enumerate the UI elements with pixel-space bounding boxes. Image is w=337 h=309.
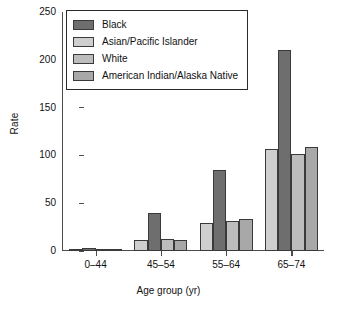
bar-chart-figure: Rate 050100150200250 Age group (yr) Blac…: [0, 0, 337, 309]
bar: [82, 248, 95, 251]
legend-label: Asian/Pacific Islander: [102, 36, 198, 47]
legend-swatch-icon: [73, 71, 94, 81]
bar: [213, 170, 226, 251]
bar: [278, 50, 291, 251]
x-tick-mark: [161, 251, 162, 256]
bar: [109, 249, 122, 251]
bar: [96, 249, 109, 251]
legend-item[interactable]: Black: [73, 16, 238, 33]
x-tick-mark: [291, 251, 292, 256]
bar: [239, 219, 252, 251]
y-axis-ticks: 050100150200250: [22, 0, 56, 309]
legend-item[interactable]: White: [73, 50, 238, 67]
y-tick-label: 50: [22, 197, 56, 209]
legend-label: American Indian/Alaska Native: [102, 70, 238, 81]
legend-label: Black: [102, 19, 126, 30]
x-tick-mark: [226, 251, 227, 256]
bar: [69, 249, 82, 251]
y-tick-label: 100: [22, 149, 56, 161]
y-tick-label: 200: [22, 54, 56, 66]
bar: [134, 240, 147, 251]
bar: [148, 213, 161, 251]
legend-swatch-icon: [73, 20, 94, 30]
bar: [265, 149, 278, 251]
bar-group: [265, 12, 318, 251]
bar: [161, 239, 174, 251]
bar: [226, 221, 239, 251]
bar: [174, 240, 187, 251]
legend-swatch-icon: [73, 37, 94, 47]
x-tick-mark: [96, 251, 97, 256]
legend-label: White: [102, 53, 128, 64]
y-tick-label: 250: [22, 6, 56, 18]
legend: BlackAsian/Pacific IslanderWhiteAmerican…: [66, 10, 248, 90]
bar: [305, 147, 318, 251]
y-tick-label: 150: [22, 102, 56, 114]
legend-item[interactable]: American Indian/Alaska Native: [73, 67, 238, 84]
legend-item[interactable]: Asian/Pacific Islander: [73, 33, 238, 50]
bar: [200, 223, 213, 251]
bar: [291, 154, 304, 251]
x-tick-label: 65–74: [251, 259, 331, 270]
y-axis-title: Rate: [9, 94, 20, 154]
x-axis-title: Age group (yr): [0, 285, 337, 296]
legend-swatch-icon: [73, 54, 94, 64]
y-tick-label: 0: [22, 245, 56, 257]
